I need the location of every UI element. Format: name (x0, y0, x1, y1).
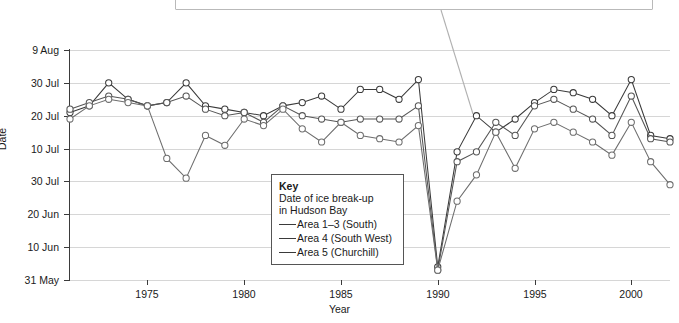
y-axis-tick-label: 9 Aug (0, 45, 59, 55)
data-point-marker (570, 90, 576, 96)
x-axis-tick-label: 1980 (232, 288, 255, 300)
legend-key-box: Key Date of ice break-up in Hudson Bay A… (271, 174, 404, 265)
data-point-marker (280, 103, 286, 109)
data-point-marker (86, 103, 92, 109)
data-point-marker (628, 76, 634, 82)
data-point-marker (493, 119, 499, 125)
x-axis-tick (147, 280, 148, 285)
data-point-marker (493, 129, 499, 135)
gridline (70, 50, 670, 51)
x-axis-tick-label: 2000 (619, 288, 642, 300)
data-point-marker (648, 159, 654, 165)
legend-label-area-1-3: Area 1–3 (South) (297, 218, 377, 230)
data-point-marker (415, 103, 421, 109)
data-point-marker (667, 139, 673, 145)
data-point-marker (338, 106, 344, 112)
data-point-marker (164, 99, 170, 105)
x-axis-tick (341, 280, 342, 285)
data-point-marker (396, 96, 402, 102)
x-axis-tick (438, 280, 439, 285)
data-point-marker (415, 122, 421, 128)
data-point-marker (531, 103, 537, 109)
data-point-marker (67, 109, 73, 115)
legend-swatch-icon-area-4 (279, 238, 296, 239)
data-point-marker (435, 267, 441, 273)
y-axis-tick-label: 10 Jun (0, 242, 59, 252)
data-point-marker (589, 139, 595, 145)
data-point-marker (551, 96, 557, 102)
data-point-marker (260, 119, 266, 125)
data-point-marker (435, 267, 441, 273)
data-point-marker (222, 142, 228, 148)
data-point-marker (125, 96, 131, 102)
callout-leader-line (441, 10, 473, 114)
y-axis-tick (64, 50, 70, 51)
data-point-marker (164, 99, 170, 105)
y-axis-tick-label: 20 Jul (0, 111, 59, 121)
gridline (70, 280, 670, 281)
data-point-marker (357, 132, 363, 138)
data-point-marker (473, 172, 479, 178)
data-point-marker (454, 159, 460, 165)
data-point-marker (512, 165, 518, 171)
data-point-marker (299, 126, 305, 132)
data-point-marker (609, 152, 615, 158)
data-series-layer (0, 0, 679, 323)
y-axis-tick (64, 149, 70, 150)
legend-item-area-5: Area 5 (Churchill) (279, 246, 397, 258)
data-point-marker (512, 132, 518, 138)
data-point-marker (144, 103, 150, 109)
data-point-marker (144, 103, 150, 109)
data-point-marker (280, 103, 286, 109)
y-axis-tick-label: 30 Jul (0, 176, 59, 186)
data-point-marker (144, 103, 150, 109)
data-point-marker (435, 264, 441, 270)
x-axis-tick (535, 280, 536, 285)
x-axis-tick-label: 1975 (135, 288, 158, 300)
data-point-marker (648, 132, 654, 138)
legend-title: Key (279, 180, 397, 192)
data-point-marker (628, 93, 634, 99)
data-point-marker (183, 93, 189, 99)
gridline (70, 83, 670, 84)
callout-box: Dates of ice break-up have become progre… (175, 0, 653, 10)
data-point-marker (299, 99, 305, 105)
data-point-marker (570, 129, 576, 135)
data-point-marker (377, 86, 383, 92)
data-point-marker (86, 103, 92, 109)
data-point-marker (357, 86, 363, 92)
x-axis-tick (244, 280, 245, 285)
data-point-marker (106, 93, 112, 99)
data-point-marker (493, 129, 499, 135)
y-axis-tick-label: 20 Jun (0, 209, 59, 219)
data-point-marker (222, 106, 228, 112)
data-point-marker (125, 96, 131, 102)
y-axis-tick (64, 181, 70, 182)
legend-swatch-icon-area-1-3 (279, 224, 296, 225)
y-axis-tick-label: 31 May (0, 275, 59, 285)
data-point-marker (454, 198, 460, 204)
data-point-marker (241, 109, 247, 115)
legend-swatch-icon-area-5 (279, 252, 296, 253)
data-point-marker (319, 139, 325, 145)
x-axis-tick-label: 1985 (329, 288, 352, 300)
data-point-marker (396, 139, 402, 145)
data-point-marker (589, 96, 595, 102)
data-point-marker (377, 136, 383, 142)
data-point-marker (551, 86, 557, 92)
gridline (70, 116, 670, 117)
x-axis-title: Year (0, 303, 679, 315)
y-axis-tick (64, 214, 70, 215)
data-point-marker (531, 126, 537, 132)
data-point-marker (260, 122, 266, 128)
data-point-marker (319, 93, 325, 99)
x-axis-tick-label: 1995 (523, 288, 546, 300)
data-point-marker (667, 136, 673, 142)
data-point-marker (67, 106, 73, 112)
y-axis-tick-label: 30 Jul (0, 78, 59, 88)
legend-label-area-5: Area 5 (Churchill) (297, 246, 379, 258)
data-point-marker (570, 106, 576, 112)
data-point-marker (202, 132, 208, 138)
gridline (70, 149, 670, 150)
data-point-marker (551, 119, 557, 125)
